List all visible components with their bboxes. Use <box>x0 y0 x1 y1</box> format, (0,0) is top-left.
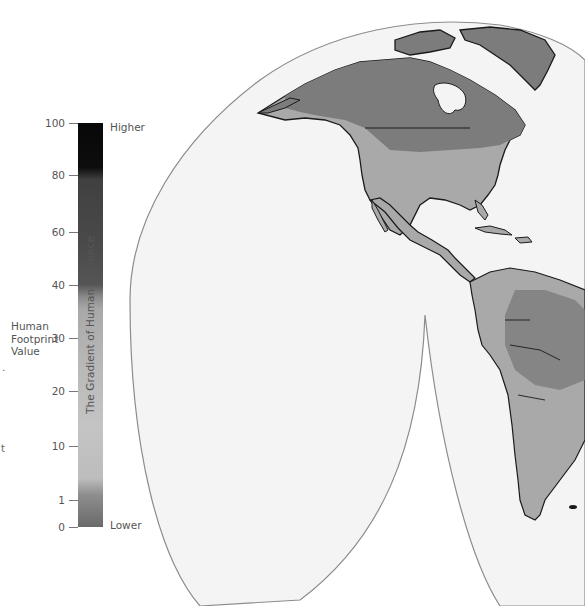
stray-mark: t <box>1 443 5 454</box>
tick-40: 40 <box>0 278 78 292</box>
higher-label: Higher <box>110 121 145 133</box>
stray-mark: . <box>2 362 5 373</box>
tick-60: 60 <box>0 225 78 239</box>
lower-label: Lower <box>110 519 141 531</box>
tick-1: 1 <box>0 493 78 507</box>
tick-10: 10 <box>0 439 78 453</box>
tick-80: 80 <box>0 168 78 182</box>
tick-20: 20 <box>0 384 78 398</box>
tick-100: 100 <box>0 116 78 130</box>
legend-title: The Gradient of Human Influence <box>85 236 97 414</box>
axis-label: Human Footprint Value <box>11 320 58 358</box>
legend: The Gradient of Human Influence 100 80 6… <box>0 0 160 606</box>
falkland-islands <box>569 505 577 509</box>
tick-0: 0 <box>0 520 78 534</box>
